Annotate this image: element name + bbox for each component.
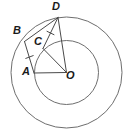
segment-DO: [58, 18, 67, 73]
vertex-label-A: A: [22, 66, 30, 77]
vertex-label-D: D: [52, 1, 60, 12]
vertex-label-B: B: [13, 25, 21, 36]
geometry-diagram: B D C A O: [0, 0, 127, 138]
geometry-canvas: [0, 0, 127, 138]
tick-on-CD: [47, 31, 54, 34]
vertex-label-C: C: [34, 36, 42, 47]
segment-AO: [34, 73, 67, 74]
vertex-label-O: O: [66, 70, 75, 81]
